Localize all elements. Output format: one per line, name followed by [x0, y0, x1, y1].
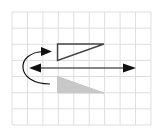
arrow-left-icon	[29, 64, 41, 73]
original-triangle	[58, 44, 105, 61]
diagram-svg	[0, 0, 157, 132]
reflection-diagram	[0, 0, 157, 132]
arrow-right-icon	[123, 64, 136, 73]
arrowhead-icon	[41, 47, 52, 56]
reflected-triangle	[58, 77, 105, 94]
